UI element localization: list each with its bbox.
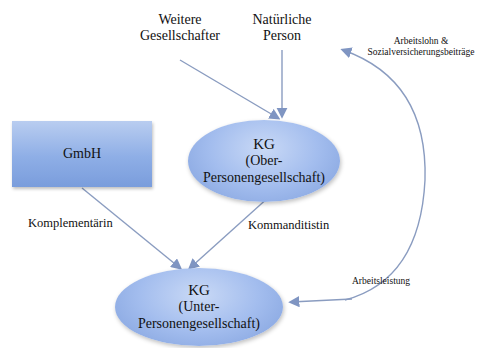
arbeitslohn-line2: Sozialversicherungsbeiträge <box>362 47 480 58</box>
gmbh-label: GmbH <box>63 146 101 162</box>
weitere-line1: Weitere <box>125 12 235 28</box>
kg-unter-line1: (Unter- <box>179 299 220 316</box>
node-kg-ober: KG (Ober- Personengesellschaft) <box>188 120 340 202</box>
edge-weitere-to-kg-ober <box>180 60 278 118</box>
edge-label-kommanditistin: Kommanditistin <box>248 218 329 232</box>
edge-label-arbeitslohn: Arbeitslohn & Sozialversicherungsbeiträg… <box>362 36 480 58</box>
edge-label-arbeitsleistung: Arbeitsleistung <box>352 276 410 287</box>
edge-label-komplementaerin: Komplementärin <box>28 216 113 230</box>
node-natuerliche-person: Natürliche Person <box>237 12 327 44</box>
weitere-line2: Gesellschafter <box>125 28 235 44</box>
edge-arbeitslohn-curve <box>343 50 425 300</box>
kg-ober-line2: Personengesellschaft) <box>203 170 325 187</box>
kg-unter-line2: Personengesellschaft) <box>138 316 260 333</box>
arbeitslohn-line1: Arbeitslohn & <box>362 36 480 47</box>
node-weitere-gesellschafter: Weitere Gesellschafter <box>125 12 235 44</box>
person-line2: Person <box>237 28 327 44</box>
person-line1: Natürliche <box>237 12 327 28</box>
kg-ober-line1: (Ober- <box>245 153 282 170</box>
node-kg-unter: KG (Unter- Personengesellschaft) <box>115 268 283 346</box>
kg-ober-title: KG <box>253 135 275 153</box>
kg-unter-title: KG <box>188 281 210 299</box>
node-gmbh: GmbH <box>12 121 152 187</box>
arbeitsleistung-arrow <box>291 299 352 302</box>
